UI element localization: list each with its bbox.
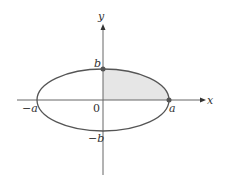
- y-axis-label: y: [98, 11, 104, 22]
- label-a: a: [169, 103, 176, 114]
- label-neg-a: −a: [22, 103, 38, 114]
- y-axis-arrow-icon: [101, 24, 106, 30]
- x-axis-label: x: [207, 95, 213, 106]
- label-b: b: [94, 58, 101, 69]
- label-origin: 0: [93, 103, 100, 114]
- ellipse-diagram: [0, 0, 227, 184]
- x-axis-arrow-icon: [200, 98, 206, 103]
- point-b: [101, 67, 106, 72]
- label-neg-b: −b: [88, 133, 104, 144]
